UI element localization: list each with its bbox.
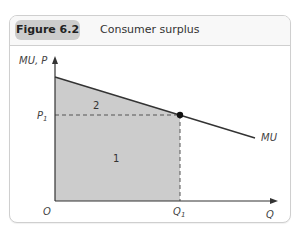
consumer-surplus-chart: MU, P Q O P1 Q1 MU 1 2 (0, 0, 300, 234)
origin-label: O (43, 206, 51, 217)
equilibrium-point (177, 112, 183, 118)
region-2-label: 2 (93, 100, 99, 111)
y-axis-label: MU, P (19, 55, 48, 66)
x-axis-arrow-icon (270, 198, 278, 204)
y-axis-arrow-icon (52, 56, 58, 64)
x-axis-label: Q (266, 209, 274, 220)
mu-curve-label: MU (261, 132, 278, 143)
q1-label: Q1 (173, 206, 185, 219)
region-1-label: 1 (113, 153, 119, 164)
p1-label: P1 (37, 110, 48, 123)
